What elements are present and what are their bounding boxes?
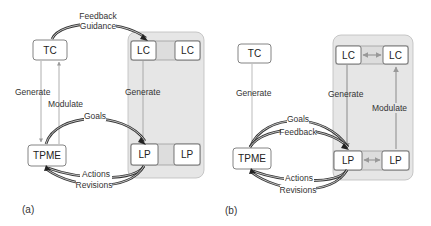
lp-label: LP — [138, 149, 151, 160]
generate-label: Generate — [328, 89, 364, 99]
tpme-label: TPME — [238, 153, 266, 164]
revisions-label: Revisions — [76, 180, 113, 190]
generate-label: Generate — [15, 87, 51, 97]
lp-node-b-1: LP — [334, 151, 362, 170]
lc-label: LC — [389, 50, 402, 61]
panel-b: TC TPME LC LC LP LP Generate — [225, 35, 413, 216]
diagram-canvas: TC TPME LC LC LP LP Generate — [0, 0, 431, 226]
lp-label: LP — [181, 149, 194, 160]
goals-label: Goals — [84, 111, 106, 121]
lp-node-b-2: LP — [382, 151, 409, 170]
lc-node-a-1: LC — [131, 41, 156, 60]
modulate-label: Modulate — [48, 99, 83, 109]
diagram-root: TC TPME LC LC LP LP Generate — [0, 0, 431, 226]
goals-label: Goals — [287, 114, 309, 124]
guidance-label: Guidance — [80, 21, 117, 31]
tpme-node-a: TPME — [28, 145, 66, 166]
revisions-label: Revisions — [280, 185, 317, 195]
lc-label: LC — [181, 45, 194, 56]
feedback-label: Feedback — [279, 127, 317, 137]
lp-node-a-1: LP — [131, 144, 158, 165]
tpme-label: TPME — [33, 150, 61, 161]
lp-label: LP — [342, 155, 355, 166]
lc-node-a-2: LC — [175, 41, 200, 60]
lc-node-b-1: LC — [336, 46, 361, 64]
actions-label: Actions — [82, 169, 110, 179]
tc-label: TC — [248, 48, 261, 59]
lc-label: LC — [137, 45, 150, 56]
tc-node-a: TC — [33, 40, 67, 60]
lp-label: LP — [389, 155, 402, 166]
lc-node-b-2: LC — [383, 46, 408, 64]
lc-label: LC — [342, 50, 355, 61]
tpme-node-b: TPME — [233, 148, 271, 169]
feedback-label: Feedback — [79, 11, 117, 21]
generate-label: Generate — [125, 87, 161, 97]
actions-label: Actions — [285, 173, 313, 183]
panel-caption-a: (a) — [22, 204, 34, 215]
panel-caption-b: (b) — [225, 205, 237, 216]
tc-label: TC — [43, 45, 56, 56]
generate-label: Generate — [236, 88, 272, 98]
modulate-label: Modulate — [372, 103, 407, 113]
tc-node-b: TC — [238, 44, 271, 63]
panel-a: TC TPME LC LC LP LP Generate — [15, 11, 204, 215]
lp-node-a-2: LP — [174, 144, 200, 165]
